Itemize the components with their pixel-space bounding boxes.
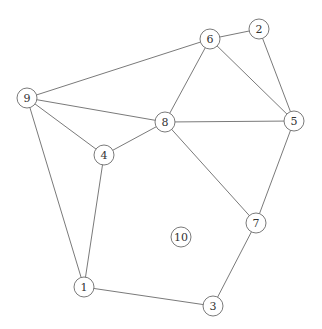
edge-1-3 — [84, 287, 213, 306]
node-label: 8 — [162, 116, 169, 129]
node-label: 10 — [174, 231, 188, 244]
node-5: 5 — [284, 111, 304, 131]
edge-2-5 — [259, 29, 294, 121]
nodes-layer: 12345678910 — [17, 19, 304, 316]
edge-9-4 — [27, 98, 104, 155]
node-4: 4 — [94, 145, 114, 165]
node-label: 1 — [81, 281, 88, 294]
edges-layer — [27, 29, 294, 306]
edge-9-8 — [27, 98, 165, 122]
node-9: 9 — [17, 88, 37, 108]
graph-canvas: 12345678910 — [0, 0, 322, 329]
edge-4-1 — [84, 155, 104, 287]
node-8: 8 — [155, 112, 175, 132]
edge-8-7 — [165, 122, 256, 223]
edge-8-5 — [165, 121, 294, 122]
edge-7-3 — [213, 223, 256, 306]
node-label: 2 — [256, 23, 263, 36]
node-label: 7 — [253, 217, 260, 230]
node-label: 3 — [210, 300, 217, 313]
edge-5-7 — [256, 121, 294, 223]
edge-6-5 — [210, 39, 294, 121]
node-label: 5 — [291, 115, 298, 128]
node-label: 4 — [101, 149, 108, 162]
node-3: 3 — [203, 296, 223, 316]
node-10: 10 — [171, 227, 191, 247]
node-label: 6 — [207, 33, 214, 46]
node-label: 9 — [24, 92, 31, 105]
node-7: 7 — [246, 213, 266, 233]
edge-9-1 — [27, 98, 84, 287]
node-1: 1 — [74, 277, 94, 297]
node-2: 2 — [249, 19, 269, 39]
node-6: 6 — [200, 29, 220, 49]
